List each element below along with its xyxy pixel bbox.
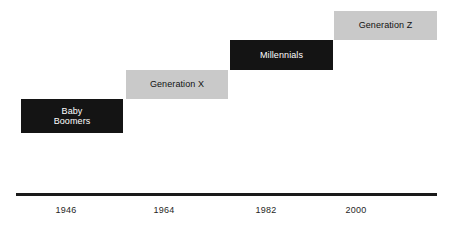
- timeline-block-label: Generation Z: [359, 20, 413, 30]
- axis-tick-1964: 1964: [154, 205, 175, 215]
- timeline-block-label: Generation X: [150, 79, 204, 89]
- timeline-block-label: Baby Boomers: [54, 106, 91, 126]
- timeline-block-baby-boomers[interactable]: Baby Boomers: [21, 99, 123, 133]
- timeline-block-generation-z[interactable]: Generation Z: [334, 11, 437, 40]
- axis-tick-1946: 1946: [56, 205, 77, 215]
- timeline-axis-line: [16, 193, 437, 196]
- axis-tick-2000: 2000: [346, 205, 367, 215]
- timeline-chart: Baby Boomers Generation X Millennials Ge…: [0, 0, 449, 234]
- timeline-block-millennials[interactable]: Millennials: [230, 40, 333, 70]
- timeline-block-generation-x[interactable]: Generation X: [126, 70, 228, 99]
- axis-tick-1982: 1982: [256, 205, 277, 215]
- timeline-block-label: Millennials: [260, 50, 303, 60]
